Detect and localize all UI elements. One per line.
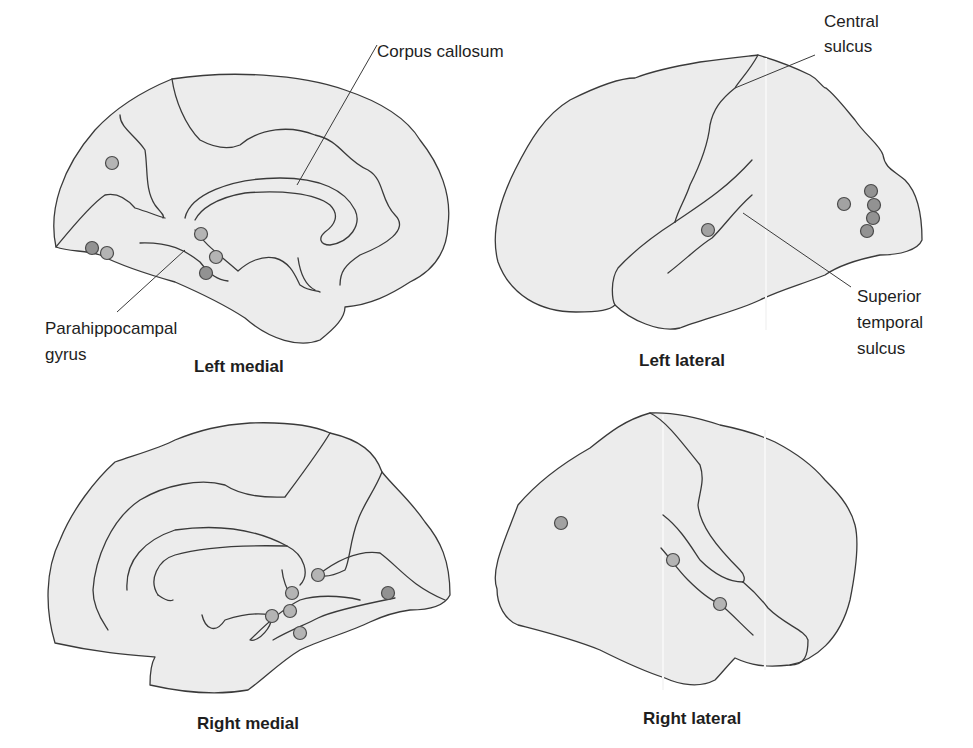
panel-title-left-lateral: Left lateral	[639, 351, 725, 370]
activation-dot	[86, 242, 99, 255]
activation-dot	[714, 598, 727, 611]
panel-right-medial: Right medial	[48, 423, 450, 733]
activation-dot	[195, 228, 208, 241]
activation-dot	[286, 587, 299, 600]
activation-dot	[266, 610, 279, 623]
activation-dot	[210, 251, 223, 264]
panel-right-lateral: Right lateral	[495, 413, 857, 728]
label-superior-2: temporal	[857, 313, 923, 332]
activation-dot	[382, 587, 395, 600]
activation-dot	[106, 157, 119, 170]
activation-dot	[294, 627, 307, 640]
label-superior-3: sulcus	[857, 339, 905, 358]
activation-dot	[865, 185, 878, 198]
brain-activation-figure: Corpus callosum Parahippocampal gyrus Le…	[0, 0, 973, 748]
panel-left-lateral: Central sulcus Superior temporal sulcus …	[495, 12, 923, 370]
activation-dot	[838, 198, 851, 211]
label-parahippocampal-2: gyrus	[45, 345, 87, 364]
label-parahippocampal-1: Parahippocampal	[45, 319, 177, 338]
activation-dot	[555, 517, 568, 530]
activation-dot	[284, 605, 297, 618]
label-central-1: Central	[824, 12, 879, 31]
activation-dot	[101, 247, 114, 260]
activation-dot	[702, 224, 715, 237]
panel-left-medial: Corpus callosum Parahippocampal gyrus Le…	[45, 42, 504, 376]
activation-dot	[868, 199, 881, 212]
right-medial-outline	[48, 423, 450, 693]
activation-dot	[667, 554, 680, 567]
panel-title-right-lateral: Right lateral	[643, 709, 741, 728]
right-lateral-outline	[495, 413, 857, 685]
label-superior-1: Superior	[857, 287, 922, 306]
label-central-2: sulcus	[824, 37, 872, 56]
activation-dot	[312, 569, 325, 582]
label-corpus-callosum: Corpus callosum	[377, 42, 504, 61]
panel-title-right-medial: Right medial	[197, 714, 299, 733]
activation-dot	[861, 225, 874, 238]
panel-title-left-medial: Left medial	[194, 357, 284, 376]
activation-dot	[867, 212, 880, 225]
activation-dot	[200, 267, 213, 280]
